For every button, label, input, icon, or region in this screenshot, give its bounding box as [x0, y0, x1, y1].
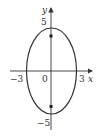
y-axis-label: y — [41, 5, 48, 15]
focus-point-bottom — [50, 105, 53, 108]
tick-label-y-neg5: −5 — [37, 118, 51, 128]
x-axis-label: x — [88, 74, 93, 84]
focus-point-top — [50, 35, 53, 38]
ellipse-diagram: y 5 −3 0 3 x −5 — [0, 0, 104, 140]
tick-label-x-neg3: −3 — [10, 74, 24, 84]
tick-label-x-3: 3 — [79, 74, 85, 84]
origin-label: 0 — [42, 74, 48, 84]
tick-label-y-5: 5 — [41, 17, 47, 27]
